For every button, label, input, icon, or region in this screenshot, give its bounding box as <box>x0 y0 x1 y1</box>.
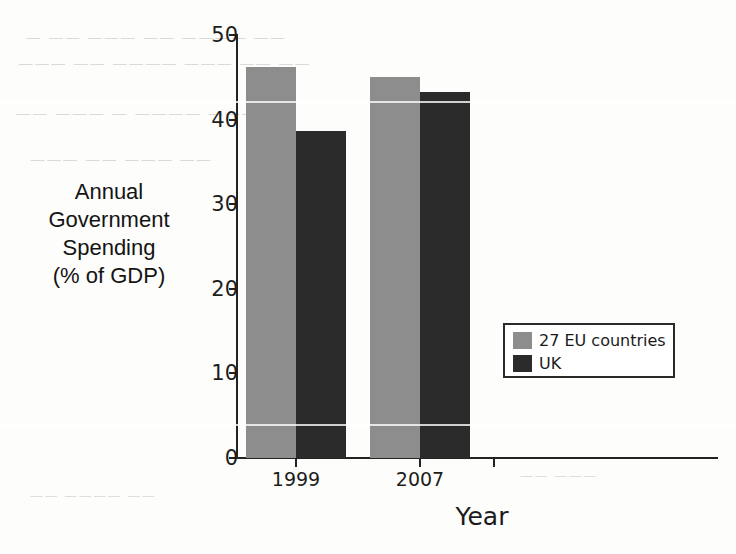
y-axis-tick-label-40: 40 <box>192 108 238 132</box>
x-axis-tick-trailing <box>493 457 495 467</box>
x-axis-tick-1999 <box>295 457 297 467</box>
y-axis-title-line-3: Spending <box>14 234 204 262</box>
legend-swatch-icon-eu <box>513 332 532 349</box>
scan-fold-line-lower <box>0 424 736 426</box>
bar-2007-eu <box>370 77 420 458</box>
y-axis-title-line-2: Government <box>14 206 204 234</box>
legend-swatch-icon-uk <box>513 355 532 372</box>
y-axis-tick-label-50: 50 <box>192 23 238 47</box>
y-axis-tick-label-0: 0 <box>192 446 238 470</box>
bar-1999-uk <box>296 131 346 458</box>
y-axis-title-line-1: Annual <box>14 178 204 206</box>
chart-legend: 27 EU countries UK <box>503 323 675 378</box>
bar-2007-uk <box>420 92 470 458</box>
y-axis-title-line-4: (% of GDP) <box>14 262 204 290</box>
chart-page: — —— ——— —— ———— —— ——— —— ———— ——— —— —… <box>0 0 736 554</box>
legend-entry-eu: 27 EU countries <box>513 329 673 352</box>
x-axis-tick-2007 <box>419 457 421 467</box>
y-axis-line <box>236 35 238 459</box>
x-axis-category-label-2007: 2007 <box>396 468 444 490</box>
y-axis-title: Annual Government Spending (% of GDP) <box>14 178 204 290</box>
legend-entry-uk: UK <box>513 352 673 375</box>
x-axis-category-label-1999: 1999 <box>272 468 320 490</box>
legend-label-uk: UK <box>539 354 561 373</box>
y-axis-tick-label-10: 10 <box>192 361 238 385</box>
legend-label-eu: 27 EU countries <box>539 331 666 350</box>
x-axis-title: Year <box>392 502 572 531</box>
scan-fold-line-upper <box>0 101 736 103</box>
bar-1999-eu <box>246 67 296 458</box>
